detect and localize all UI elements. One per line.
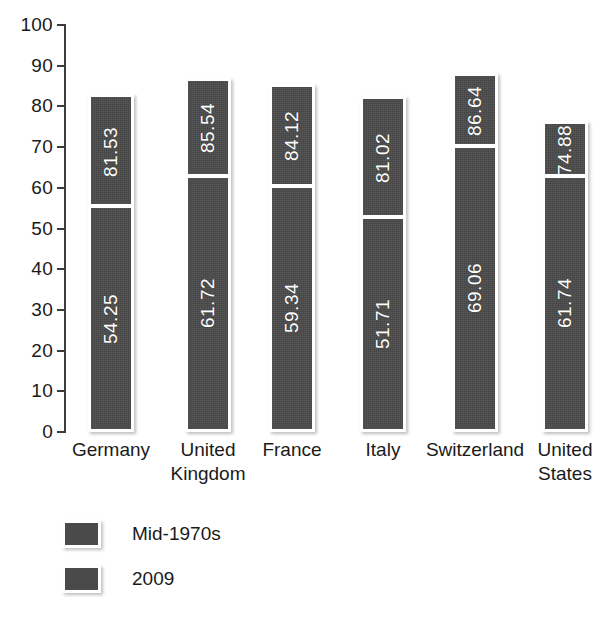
- bar-value-label: 81.53: [100, 127, 122, 177]
- bar-value-label: 84.12: [281, 111, 303, 161]
- bar-stack[interactable]: 85.5461.72: [185, 78, 231, 432]
- bar-segment-mid-1970s[interactable]: 51.71: [363, 219, 403, 429]
- bar-segment-mid-1970s[interactable]: 59.34: [272, 188, 312, 430]
- bar-segment-2009[interactable]: 74.88: [545, 124, 585, 175]
- legend-label: Mid-1970s: [132, 520, 221, 548]
- bar-stack[interactable]: 86.6469.06: [452, 73, 498, 432]
- bar-segment-divider: [272, 184, 312, 188]
- legend-label: 2009: [132, 565, 174, 593]
- bar-segment-mid-1970s[interactable]: 69.06: [455, 148, 495, 429]
- bar-segment-2009[interactable]: 81.02: [363, 99, 403, 216]
- bar-segment-mid-1970s[interactable]: 61.72: [188, 178, 228, 429]
- bar-value-label: 86.64: [464, 86, 486, 136]
- bar-stack[interactable]: 74.8861.74: [542, 121, 588, 432]
- bar-stack[interactable]: 84.1259.34: [269, 84, 315, 432]
- legend-swatch: [62, 520, 101, 548]
- bar-segment-divider: [188, 174, 228, 178]
- y-axis-tick-label: 50: [31, 216, 53, 242]
- y-axis-tick-mark: [57, 105, 66, 107]
- y-axis-tick-label: 90: [31, 53, 53, 79]
- x-axis-label-line: United: [500, 438, 614, 462]
- plot-area: 81.5354.2585.5461.7284.1259.3481.0251.71…: [66, 25, 614, 432]
- y-axis-tick-mark: [57, 350, 66, 352]
- y-axis-tick-mark: [57, 24, 66, 26]
- bar-value-label: 61.74: [554, 278, 576, 328]
- bar-value-label: 85.54: [197, 103, 219, 153]
- y-axis-tick-label: 40: [31, 256, 53, 282]
- y-axis-tick-label: 30: [31, 297, 53, 323]
- y-axis-tick-mark: [57, 390, 66, 392]
- y-axis-tick-label: 70: [31, 134, 53, 160]
- bar-segment-divider: [455, 144, 495, 148]
- bar-segment-2009[interactable]: 85.54: [188, 81, 228, 176]
- bar-value-label: 74.88: [554, 125, 576, 175]
- y-axis-tick-mark: [57, 431, 66, 433]
- y-axis-tick-mark: [57, 309, 66, 311]
- bar-segment-divider: [363, 215, 403, 219]
- x-axis-label-line: Kingdom: [143, 462, 273, 486]
- bar-segment-divider: [545, 174, 585, 178]
- bar-segment-mid-1970s[interactable]: 54.25: [91, 208, 131, 429]
- x-axis-label-united-states: UnitedStates: [500, 438, 614, 486]
- bar-segment-2009[interactable]: 81.53: [91, 97, 131, 206]
- y-axis-tick-mark: [57, 268, 66, 270]
- bar-segment-divider: [91, 204, 131, 208]
- y-axis-tick-label: 10: [31, 378, 53, 404]
- bar-value-label: 69.06: [464, 263, 486, 313]
- y-axis-tick-mark: [57, 187, 66, 189]
- legend-swatch: [62, 565, 101, 593]
- y-axis-tick-label: 60: [31, 175, 53, 201]
- y-axis-tick-mark: [57, 65, 66, 67]
- bar-value-label: 54.25: [100, 294, 122, 344]
- bar-stack[interactable]: 81.0251.71: [360, 96, 406, 432]
- y-axis-tick-label: 100: [20, 12, 53, 38]
- bar-value-label: 81.02: [372, 133, 394, 183]
- bar-value-label: 51.71: [372, 299, 394, 349]
- y-axis-tick-label: 20: [31, 338, 53, 364]
- bar-stack[interactable]: 81.5354.25: [88, 94, 134, 432]
- bar-value-label: 61.72: [197, 278, 219, 328]
- bar-segment-mid-1970s[interactable]: 61.74: [545, 178, 585, 429]
- bar-segment-2009[interactable]: 84.12: [272, 87, 312, 186]
- bar-segment-2009[interactable]: 86.64: [455, 76, 495, 146]
- y-axis-tick-mark: [57, 146, 66, 148]
- bar-value-label: 59.34: [281, 283, 303, 333]
- y-axis-tick-mark: [57, 228, 66, 230]
- y-axis-tick-label: 80: [31, 93, 53, 119]
- x-axis-label-line: States: [500, 462, 614, 486]
- stacked-bar-chart: 1009080706050403020100 81.5354.2585.5461…: [0, 0, 614, 621]
